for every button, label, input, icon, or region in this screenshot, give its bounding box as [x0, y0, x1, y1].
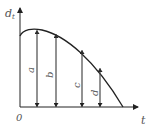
y-axis-label: dt — [5, 7, 15, 21]
label-d: d — [89, 90, 100, 96]
label-a: a — [25, 67, 36, 73]
label-b: b — [44, 72, 55, 78]
x-axis-label: t — [141, 114, 146, 127]
origin-label: 0 — [16, 112, 23, 123]
label-c: c — [71, 82, 82, 88]
decay-curve-diagram: dt t 0 a b c d — [0, 0, 158, 131]
